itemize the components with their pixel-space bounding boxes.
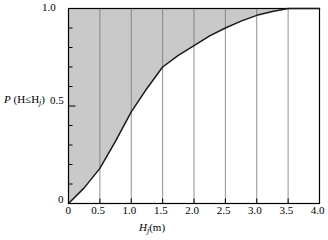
x-tick-label-0: 0	[66, 205, 72, 216]
y-tick-label-0.5: 0.5	[50, 95, 64, 106]
x-tick-label-1.5: 1.5	[154, 205, 168, 216]
y-axis-title-p: P	[4, 93, 11, 105]
x-axis-title: Hj(m)	[139, 222, 165, 235]
x-tick-label-3.0: 3.0	[248, 205, 262, 216]
x-tick-label-4.0: 4.0	[311, 205, 325, 216]
x-axis-title-main: H	[139, 221, 147, 233]
y-tick-label-1.0: 1.0	[42, 2, 56, 13]
x-axis-title-units: (m)	[149, 221, 165, 233]
y-axis-title-body: (H≤H	[13, 93, 39, 105]
figure-cdf-wave-height: P (H≤Hj) 1.0 0.5 0 00.51.01.52.02.53.03.…	[0, 0, 328, 240]
x-tick-label-2.5: 2.5	[217, 205, 231, 216]
x-axis-ticks	[69, 199, 320, 204]
y-axis-title: P (H≤Hj)	[4, 94, 45, 107]
x-tick-label-2.0: 2.0	[185, 205, 199, 216]
y-tick-label-0: 0	[58, 194, 64, 205]
x-tick-label-0.5: 0.5	[91, 205, 105, 216]
x-tick-label-3.5: 3.5	[279, 205, 293, 216]
x-tick-label-1.0: 1.0	[123, 205, 137, 216]
y-axis-title-close: )	[41, 93, 45, 105]
